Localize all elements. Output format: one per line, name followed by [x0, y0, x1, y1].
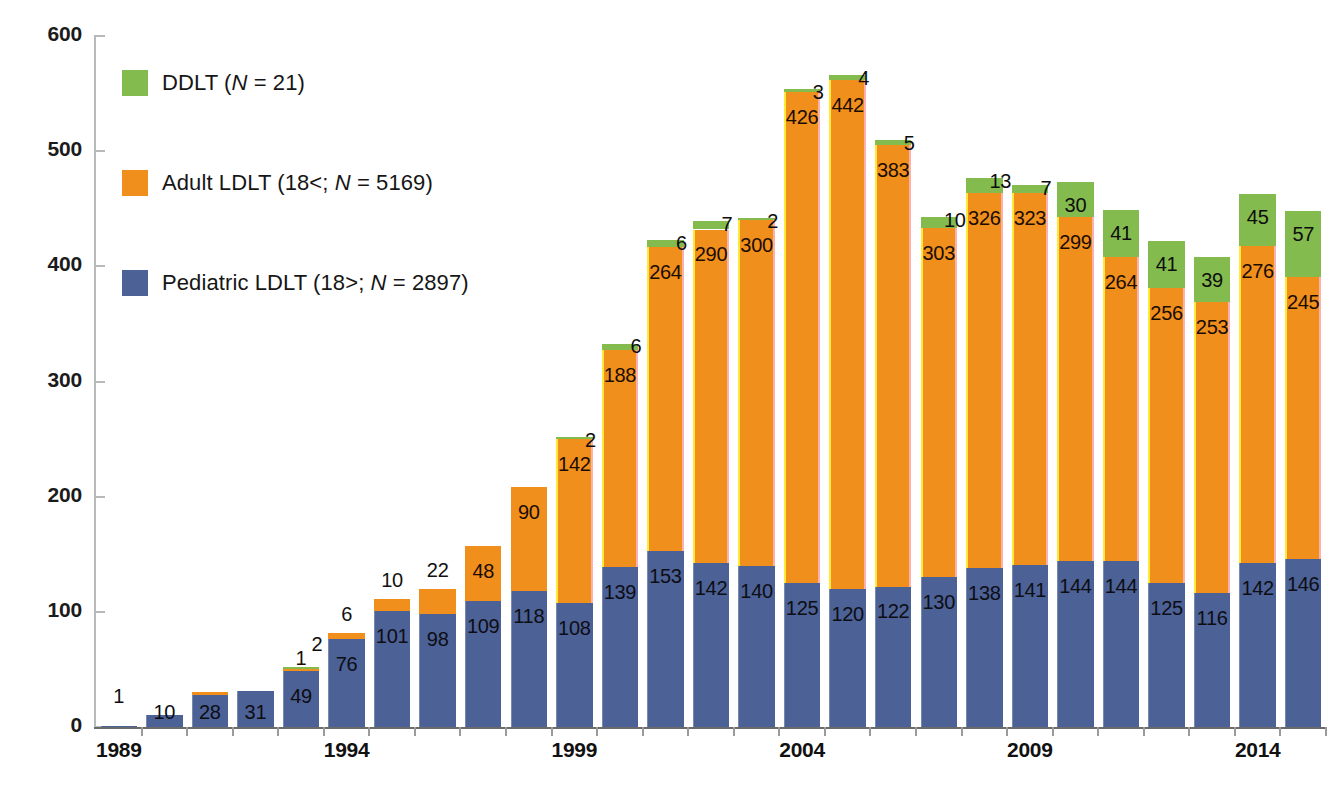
bar-segment-adult — [1057, 217, 1093, 561]
value-label-adult-2003: 300 — [740, 234, 772, 257]
x-tick-mark — [1006, 727, 1008, 736]
y-tick-mark — [94, 265, 105, 267]
legend-label: Adult LDLT (18<; N = 5169) — [162, 170, 433, 196]
x-tick-mark — [232, 727, 234, 736]
bar-segment-adult — [738, 220, 774, 566]
bar-2006[interactable] — [875, 140, 911, 727]
bar-2003[interactable] — [738, 218, 774, 727]
value-label-adult-2014: 276 — [1241, 260, 1273, 283]
bar-2008[interactable] — [966, 178, 1002, 727]
x-tick-label-1999: 1999 — [552, 738, 598, 762]
bar-2009[interactable] — [1012, 185, 1048, 727]
bar-2001[interactable] — [647, 240, 683, 727]
value-label-pediatric-2003: 140 — [740, 580, 772, 603]
value-label-adult-2002: 290 — [695, 243, 727, 266]
scan-edge-left — [1239, 246, 1241, 564]
y-tick-label: 0 — [20, 713, 82, 737]
x-tick-label-2009: 2009 — [1007, 738, 1053, 762]
y-tick-label: 200 — [20, 483, 82, 507]
legend-item-0[interactable]: DDLT (N = 21) — [122, 70, 305, 96]
bar-segment-adult — [1285, 277, 1321, 559]
x-tick-mark — [915, 727, 917, 736]
x-tick-mark — [1188, 727, 1190, 736]
value-label-ddlt-2009: 7 — [1040, 177, 1051, 200]
value-label-total-1996: 22 — [427, 559, 449, 582]
bar-1996[interactable] — [419, 589, 455, 727]
value-label-adult-1999: 142 — [558, 453, 590, 476]
x-tick-mark — [186, 727, 188, 736]
bar-segment-adult — [192, 692, 228, 694]
value-label-ddlt-2008: 13 — [990, 170, 1012, 193]
bar-2007[interactable] — [921, 217, 957, 727]
value-label-adult-2007: 303 — [923, 242, 955, 265]
x-tick-mark — [459, 727, 461, 736]
legend-item-2[interactable]: Pediatric LDLT (18>; N = 2897) — [122, 270, 469, 296]
x-tick-mark — [1052, 727, 1054, 736]
y-tick-label: 500 — [20, 137, 82, 161]
x-tick-mark — [414, 727, 416, 736]
value-label-ddlt-2014: 45 — [1247, 206, 1269, 229]
scan-edge-right — [636, 350, 638, 567]
value-label-pediatric-1991: 28 — [199, 701, 221, 724]
bar-segment-adult — [921, 228, 957, 577]
bar-segment-adult — [419, 589, 455, 614]
value-label-adult-1993: 1 — [296, 647, 307, 670]
bar-segment-adult — [1239, 246, 1275, 564]
bar-2015[interactable] — [1285, 211, 1321, 727]
y-tick-label: 100 — [20, 598, 82, 622]
legend-label: DDLT (N = 21) — [162, 70, 305, 96]
bar-1994[interactable] — [328, 633, 364, 727]
bar-segment-adult — [1194, 302, 1230, 593]
scan-edge-right — [955, 228, 957, 577]
bar-1999[interactable] — [556, 437, 592, 727]
value-label-pediatric-1993: 49 — [290, 685, 312, 708]
scan-edge-left — [693, 230, 695, 564]
bar-segment-adult — [829, 80, 865, 589]
value-label-pediatric-2007: 130 — [923, 591, 955, 614]
x-tick-mark — [551, 727, 553, 736]
value-label-pediatric-1990: 10 — [154, 701, 176, 724]
value-label-ddlt-2000: 6 — [630, 335, 641, 358]
scan-edge-right — [682, 247, 684, 551]
x-tick-mark — [596, 727, 598, 736]
bar-segment-adult — [784, 92, 820, 583]
legend-item-1[interactable]: Adult LDLT (18<; N = 5169) — [122, 170, 433, 196]
value-label-ddlt-1999: 2 — [585, 429, 596, 452]
scan-edge-left — [1194, 302, 1196, 593]
value-label-pediatric-1992: 31 — [245, 701, 267, 724]
value-label-pediatric-2006: 122 — [877, 600, 909, 623]
bar-2004[interactable] — [784, 89, 820, 727]
scan-edge-right — [1092, 217, 1094, 561]
value-label-ddlt-2011: 41 — [1110, 222, 1132, 245]
scan-edge-right — [1274, 246, 1276, 564]
value-label-pediatric-2012: 125 — [1150, 597, 1182, 620]
scan-edge-right — [1183, 288, 1185, 583]
value-label-adult-2005: 442 — [831, 94, 863, 117]
bar-segment-adult — [966, 193, 1002, 568]
y-tick-mark — [94, 381, 105, 383]
bar-1995[interactable] — [374, 599, 410, 727]
scan-edge-right — [1228, 302, 1230, 593]
value-label-pediatric-1996: 98 — [427, 628, 449, 651]
value-label-ddlt-2010: 30 — [1065, 194, 1087, 217]
scan-edge-left — [921, 228, 923, 577]
bar-segment-adult — [328, 633, 364, 640]
value-label-pediatric-2008: 138 — [968, 582, 1000, 605]
bar-2000[interactable] — [602, 344, 638, 728]
y-tick-mark — [94, 496, 105, 498]
scan-edge-right — [727, 230, 729, 564]
bar-2002[interactable] — [693, 221, 729, 727]
x-tick-mark — [1143, 727, 1145, 736]
bar-2010[interactable] — [1057, 182, 1093, 727]
y-tick-mark — [94, 35, 105, 37]
bar-2005[interactable] — [829, 75, 865, 727]
value-label-adult-1998: 90 — [518, 501, 540, 524]
bar-segment-adult — [875, 145, 911, 586]
scan-edge-left — [1103, 257, 1105, 561]
scan-edge-left — [1057, 217, 1059, 561]
scan-edge-right — [1046, 193, 1048, 565]
value-label-adult-2008: 326 — [968, 207, 1000, 230]
bar-segment-adult — [1148, 288, 1184, 583]
legend-swatch-icon — [122, 270, 148, 296]
value-label-pediatric-2015: 146 — [1287, 573, 1319, 596]
